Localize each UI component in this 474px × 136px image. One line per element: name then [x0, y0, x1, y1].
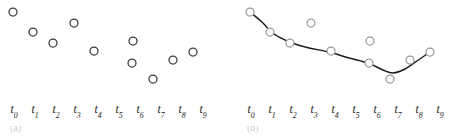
- panel-a-svg: [0, 0, 237, 100]
- panel-a-caption-clipped: (a): [10, 126, 21, 133]
- data-point-marker: [386, 75, 394, 83]
- data-point-marker: [266, 28, 274, 36]
- tick-subscript: 6: [377, 111, 381, 120]
- data-point-marker: [426, 48, 434, 56]
- tick-subscript: 0: [14, 111, 18, 120]
- data-point-marker: [90, 47, 98, 55]
- tick-subscript: 4: [335, 111, 339, 120]
- tick-label-t4: t4: [331, 102, 338, 116]
- tick-subscript: 5: [356, 111, 360, 120]
- tick-label-t7: t7: [394, 102, 401, 116]
- tick-subscript: 8: [419, 111, 423, 120]
- tick-label-t1: t1: [268, 102, 275, 116]
- tick-subscript: 7: [161, 111, 165, 120]
- tick-subscript: 1: [35, 111, 39, 120]
- tick-label-t0: t0: [247, 102, 254, 116]
- panel-a-marker-group: [9, 8, 197, 83]
- tick-subscript: 7: [398, 111, 402, 120]
- tick-label-t8: t8: [178, 102, 185, 116]
- tick-subscript: 0: [251, 111, 255, 120]
- data-point-marker: [129, 37, 137, 45]
- panel-b-curve-group: [250, 12, 430, 73]
- data-point-marker: [365, 59, 373, 67]
- tick-subscript: 9: [203, 111, 207, 120]
- data-point-marker: [286, 39, 294, 47]
- tick-subscript: 8: [182, 111, 186, 120]
- tick-subscript: 2: [56, 111, 60, 120]
- tick-label-t8: t8: [415, 102, 422, 116]
- panel-b-svg: [237, 0, 474, 100]
- tick-label-t6: t6: [373, 102, 380, 116]
- data-point-marker: [9, 8, 17, 16]
- data-point-marker: [406, 56, 414, 64]
- tick-label-t5: t5: [115, 102, 122, 116]
- tick-label-t7: t7: [157, 102, 164, 116]
- tick-subscript: 5: [119, 111, 123, 120]
- figure-two-panel-scatter: t0t1t2t3t4t5t6t7t8t9 (a) t0t1t2t3t4t5t6t…: [0, 0, 474, 136]
- tick-label-t0: t0: [10, 102, 17, 116]
- data-point-marker: [49, 39, 57, 47]
- data-point-marker: [327, 47, 335, 55]
- tick-label-t6: t6: [136, 102, 143, 116]
- tick-label-t9: t9: [436, 102, 443, 116]
- tick-label-t5: t5: [352, 102, 359, 116]
- tick-label-t4: t4: [94, 102, 101, 116]
- data-point-marker: [366, 37, 374, 45]
- tick-subscript: 6: [140, 111, 144, 120]
- tick-subscript: 9: [440, 111, 444, 120]
- panel-a-scatter-only: t0t1t2t3t4t5t6t7t8t9 (a): [0, 0, 237, 136]
- data-point-marker: [149, 75, 157, 83]
- tick-label-t3: t3: [73, 102, 80, 116]
- tick-subscript: 1: [272, 111, 276, 120]
- tick-subscript: 4: [98, 111, 102, 120]
- panel-b-caption-strip: (b): [237, 126, 474, 136]
- panel-b-plot-area: [237, 0, 474, 100]
- data-point-marker: [29, 28, 37, 36]
- tick-label-t3: t3: [310, 102, 317, 116]
- panel-a-plot-area: [0, 0, 237, 100]
- tick-label-t9: t9: [199, 102, 206, 116]
- data-point-marker: [128, 59, 136, 67]
- data-point-marker: [70, 19, 78, 27]
- data-point-marker: [246, 8, 254, 16]
- panel-b-marker-group: [246, 8, 434, 83]
- tick-label-t2: t2: [289, 102, 296, 116]
- data-point-marker: [169, 56, 177, 64]
- tick-subscript: 3: [77, 111, 81, 120]
- tick-subscript: 3: [314, 111, 318, 120]
- tick-subscript: 2: [293, 111, 297, 120]
- fitted-curve-path: [250, 12, 430, 73]
- panel-b-scatter-with-curve: t0t1t2t3t4t5t6t7t8t9 (b): [237, 0, 474, 136]
- panel-b-axis-labels: t0t1t2t3t4t5t6t7t8t9: [237, 100, 474, 122]
- data-point-marker: [189, 48, 197, 56]
- tick-label-t2: t2: [52, 102, 59, 116]
- panel-a-axis-labels: t0t1t2t3t4t5t6t7t8t9: [0, 100, 237, 122]
- data-point-marker: [307, 19, 315, 27]
- tick-label-t1: t1: [31, 102, 38, 116]
- panel-b-caption-clipped: (b): [247, 126, 259, 133]
- panel-a-caption-strip: (a): [0, 126, 237, 136]
